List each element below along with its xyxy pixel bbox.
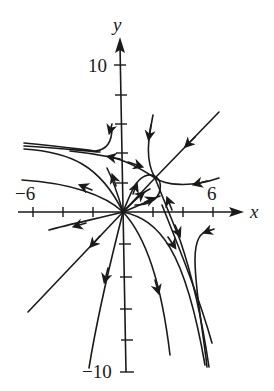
- trajectory: [49, 212, 123, 230]
- trajectory: [22, 180, 123, 212]
- phase-portrait: x y −6 6 10 −10: [0, 0, 274, 391]
- trajectory-arrow: [149, 125, 151, 137]
- trajectory-arrow: [82, 186, 92, 190]
- trajectory: [162, 205, 212, 343]
- trajectory: [123, 212, 170, 355]
- trajectory: [28, 212, 123, 312]
- trajectory-arrow: [187, 137, 195, 145]
- trajectories: [22, 112, 219, 368]
- x-tick-label-pos: 6: [207, 183, 217, 204]
- trajectory-arrow: [110, 157, 120, 159]
- trajectory: [24, 149, 123, 212]
- y-tick-label-neg: −10: [82, 361, 112, 382]
- y-tick-label-pos: 10: [88, 55, 107, 76]
- trajectory: [195, 230, 210, 367]
- y-axis-label: y: [111, 14, 122, 35]
- x-axis-label: x: [249, 201, 259, 222]
- trajectory-arrow: [92, 236, 100, 245]
- trajectory: [123, 212, 205, 365]
- trajectory-arrow: [168, 200, 172, 210]
- x-tick-label-neg: −6: [15, 183, 35, 204]
- trajectory: [89, 212, 123, 368]
